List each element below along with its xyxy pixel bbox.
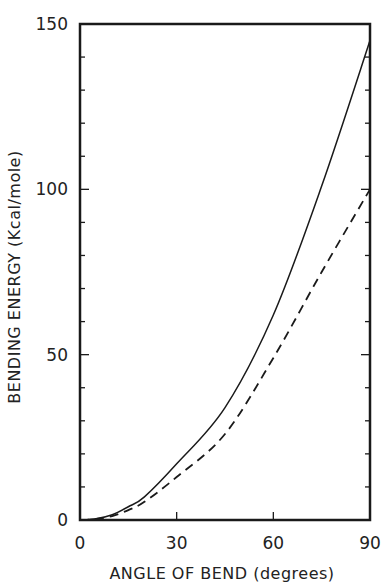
dashed-curve xyxy=(80,189,370,520)
minor-ticks xyxy=(80,57,370,520)
y-tick-label: 50 xyxy=(46,345,68,365)
y-tick-labels: 050100150 xyxy=(36,14,68,530)
bending-energy-chart: 0306090 050100150 ANGLE OF BEND (degrees… xyxy=(0,0,386,587)
x-tick-label: 0 xyxy=(75,533,86,553)
y-tick-label: 150 xyxy=(36,14,68,34)
x-axis-title: ANGLE OF BEND (degrees) xyxy=(109,564,334,583)
x-tick-label: 30 xyxy=(166,533,188,553)
y-tick-label: 0 xyxy=(57,510,68,530)
series-layer xyxy=(80,41,370,520)
x-tick-label: 90 xyxy=(359,533,381,553)
x-tick-label: 60 xyxy=(263,533,285,553)
x-tick-labels: 0306090 xyxy=(75,533,381,553)
plot-frame xyxy=(80,24,370,520)
y-tick-label: 100 xyxy=(36,179,68,199)
y-axis-title: BENDING ENERGY (Kcal/mole) xyxy=(5,150,24,403)
solid-curve xyxy=(80,41,370,520)
